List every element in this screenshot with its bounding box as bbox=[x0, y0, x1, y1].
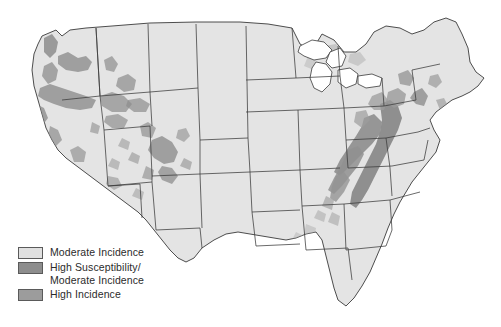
high-susceptibility-swatch bbox=[18, 262, 43, 274]
legend-label-high-susceptibility: High Susceptibility/ Moderate Incidence bbox=[50, 261, 144, 286]
legend-item-moderate-incidence: Moderate Incidence bbox=[18, 246, 208, 259]
legend-label-moderate-incidence: Moderate Incidence bbox=[50, 246, 144, 259]
map-legend: Moderate Incidence High Susceptibility/ … bbox=[18, 246, 208, 303]
legend-item-high-susceptibility: High Susceptibility/ Moderate Incidence bbox=[18, 261, 208, 286]
legend-item-high-incidence: High Incidence bbox=[18, 288, 208, 301]
moderate-incidence-swatch bbox=[18, 247, 43, 259]
us-incidence-map-figure: Moderate Incidence High Susceptibility/ … bbox=[0, 0, 501, 327]
legend-label-high-incidence: High Incidence bbox=[50, 288, 121, 301]
high-incidence-swatch bbox=[18, 289, 43, 301]
